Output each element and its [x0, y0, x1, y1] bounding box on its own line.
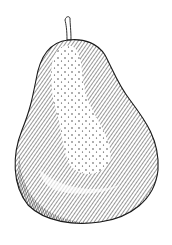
- pear-body-shading: [0, 0, 172, 245]
- stem: [65, 17, 71, 40]
- pear-drawing: [0, 0, 172, 245]
- pear-illustration: [0, 0, 172, 245]
